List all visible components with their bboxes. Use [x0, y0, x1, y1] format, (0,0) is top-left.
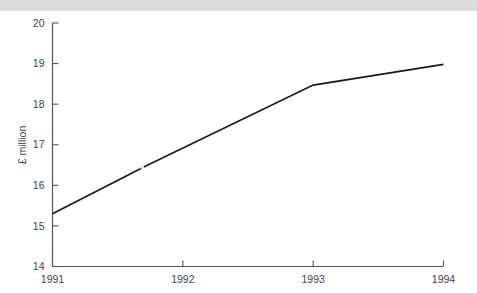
x-tick-label-1992: 1992 [171, 273, 195, 285]
x-tick-label-1994: 1994 [432, 273, 456, 285]
series-line-segment-main [144, 64, 444, 167]
y-tick-label-19: 19 [33, 57, 45, 69]
scan-margin-top [0, 0, 477, 11]
x-axis-tick-labels: 1991199219931994 [41, 273, 456, 285]
line-break-marker-icon [140, 167, 142, 169]
y-tick-label-20: 20 [33, 17, 45, 29]
y-axis-tick-labels: 14151617181920 [33, 17, 45, 273]
series-group [53, 64, 444, 213]
x-axis-ticks [53, 261, 444, 267]
chart-page: 14151617181920 1991199219931994 £ millio… [0, 0, 477, 293]
series-line-segment-early [53, 169, 141, 214]
y-axis-ticks [53, 23, 59, 267]
y-axis-title: £ million [16, 126, 28, 165]
y-tick-label-17: 17 [33, 138, 45, 150]
y-tick-label-15: 15 [33, 220, 45, 232]
y-tick-label-18: 18 [33, 98, 45, 110]
plot-area: 14151617181920 1991199219931994 £ millio… [0, 11, 477, 293]
y-tick-label-14: 14 [33, 260, 45, 272]
line-chart: 14151617181920 1991199219931994 £ millio… [0, 11, 477, 293]
x-tick-label-1993: 1993 [301, 273, 325, 285]
y-tick-label-16: 16 [33, 179, 45, 191]
x-tick-label-1991: 1991 [41, 273, 65, 285]
